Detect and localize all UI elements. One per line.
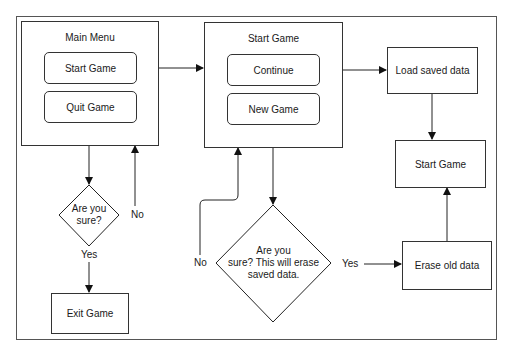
start-game-button[interactable]: Start Game [44,52,137,84]
new-game-confirm-line1: Are you [216,245,331,257]
new-game-button[interactable]: New Game [227,93,320,125]
new-game-yes-label: Yes [341,258,359,269]
new-game-no-label: No [193,257,208,268]
start-game-menu-title: Start Game [205,33,342,44]
quit-confirm-line2: sure? [59,215,119,227]
main-menu-title: Main Menu [22,32,158,43]
exit-game-box: Exit Game [51,293,129,334]
start-game-box: Start Game [395,140,486,188]
erase-old-data-box: Erase old data [402,241,492,290]
quit-game-button[interactable]: Quit Game [44,91,137,123]
quit-no-label: No [130,209,145,220]
quit-yes-label: Yes [80,249,98,260]
quit-confirm-line1: Are you [59,203,119,215]
new-game-confirm-text: Are you sure? This will erase saved data… [216,245,331,281]
quit-confirm-text: Are you sure? [59,203,119,227]
load-saved-data-box: Load saved data [387,47,478,94]
continue-button[interactable]: Continue [227,54,320,86]
new-game-confirm-line3: saved data. [216,269,331,281]
new-game-confirm-line2: sure? This will erase [216,257,331,269]
